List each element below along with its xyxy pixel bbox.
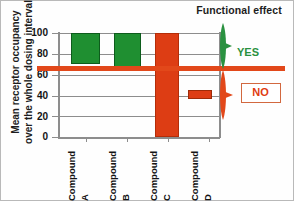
xlabel-compound-b-line1: Compound [106, 131, 119, 201]
bar-compound-b [114, 33, 141, 70]
bar-compound-a [71, 33, 100, 64]
yes-label: YES [237, 46, 259, 58]
ytick-mark-20 [52, 116, 58, 117]
y-axis-line [58, 32, 60, 138]
xlabel-compound-a-line2: A [78, 131, 91, 201]
ytick-mark-100 [52, 33, 58, 34]
ytick-mark-60 [52, 75, 58, 76]
bar-compound-d [188, 90, 212, 99]
chart-figure: Functional effect Mean receptor occupanc… [0, 0, 294, 201]
ytick-label-40: 40 [8, 90, 48, 101]
ytick-label-20: 20 [8, 111, 48, 122]
ytick-mark-40 [52, 96, 58, 97]
gridline-20 [58, 116, 219, 117]
functional-effect-title: Functional effect [187, 3, 291, 17]
ytick-mark-0 [52, 137, 58, 138]
ytick-label-80: 80 [8, 48, 48, 59]
no-label-box: NO [241, 83, 281, 103]
no-bracket-icon [217, 69, 239, 121]
yes-bracket-icon [217, 22, 239, 70]
xlabel-compound-a-line1: Compound [65, 131, 78, 201]
xlabel-compound-c-line1: Compound [147, 131, 160, 201]
gridline-60 [58, 75, 219, 76]
ytick-label-0: 0 [8, 131, 48, 142]
xlabel-compound-c-line2: C [160, 131, 173, 201]
no-label: NO [242, 84, 279, 101]
xlabel-compound-d-line2: D [201, 131, 214, 201]
plot-area [58, 33, 219, 137]
xlabel-compound-d-line1: Compound [188, 131, 201, 201]
xlabel-compound-b-line2: B [119, 131, 132, 201]
bar-compound-c [155, 33, 179, 137]
ytick-label-100: 100 [8, 27, 48, 38]
ytick-mark-80 [52, 54, 58, 55]
threshold-line [37, 66, 285, 71]
